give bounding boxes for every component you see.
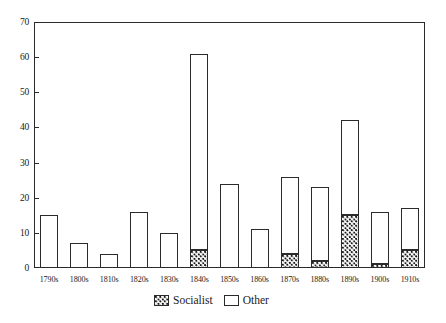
x-axis-tick-label: 1820s — [124, 274, 154, 285]
bar-segment-other — [130, 212, 148, 268]
bar-segment-other — [190, 54, 208, 251]
bar-segment-socialist — [401, 250, 419, 268]
x-axis-tick-label: 1890s — [335, 274, 365, 285]
bar-1790s — [40, 215, 58, 268]
socialist-swatch-icon — [154, 295, 169, 306]
legend-label-socialist: Socialist — [173, 294, 213, 307]
legend-label-other: Other — [243, 294, 269, 307]
bar-segment-other — [160, 233, 178, 268]
y-axis-tick-label: 70 — [0, 16, 34, 28]
x-axis-tick-label: 1910s — [395, 274, 425, 285]
bar-1840s — [190, 54, 208, 268]
bar-segment-socialist — [281, 254, 299, 268]
bar-segment-socialist — [190, 250, 208, 268]
bar-chart: 010203040506070 1790s1800s1810s1820s1830… — [0, 0, 446, 323]
x-axis-tick-label: 1830s — [154, 274, 184, 285]
other-swatch-icon — [224, 295, 239, 306]
x-axis-tick-label: 1900s — [365, 274, 395, 285]
y-axis-tick-label: 50 — [0, 86, 34, 98]
bar-segment-socialist — [341, 215, 359, 268]
y-axis-tick-mark — [34, 57, 39, 58]
y-axis-tick-mark — [34, 92, 39, 93]
bar-1850s — [220, 184, 238, 268]
bar-segment-socialist — [311, 261, 329, 268]
x-axis-tick-label: 1800s — [64, 274, 94, 285]
bar-1800s — [70, 243, 88, 268]
bar-1910s — [401, 208, 419, 268]
bar-segment-other — [281, 177, 299, 254]
y-axis-tick-label: 60 — [0, 51, 34, 63]
bar-1880s — [311, 187, 329, 268]
bar-segment-socialist — [371, 264, 389, 268]
bar-segment-other — [371, 212, 389, 265]
y-axis-tick-mark — [34, 163, 39, 164]
y-axis-tick-mark — [34, 233, 39, 234]
bar-segment-other — [341, 120, 359, 215]
bar-1860s — [251, 229, 269, 268]
y-axis-tick-label: 30 — [0, 157, 34, 169]
bar-1870s — [281, 177, 299, 268]
y-axis-tick-label: 10 — [0, 227, 34, 239]
y-axis-tick-label: 20 — [0, 192, 34, 204]
bar-segment-other — [311, 187, 329, 261]
bar-segment-other — [401, 208, 419, 250]
legend-entry-socialist: Socialist — [154, 294, 213, 307]
bar-segment-other — [40, 215, 58, 268]
bar-1890s — [341, 120, 359, 268]
bar-1830s — [160, 233, 178, 268]
bar-segment-other — [251, 229, 269, 268]
x-axis-tick-label: 1790s — [34, 274, 64, 285]
bar-1820s — [130, 212, 148, 268]
x-axis-tick-label: 1870s — [275, 274, 305, 285]
legend-entry-other: Other — [224, 294, 269, 307]
x-axis-tick-label: 1810s — [94, 274, 124, 285]
bar-segment-other — [220, 184, 238, 268]
y-axis-tick-label: 40 — [0, 121, 34, 133]
x-axis-tick-label: 1840s — [184, 274, 214, 285]
x-axis-tick-label: 1880s — [305, 274, 335, 285]
x-axis-tick-label: 1860s — [245, 274, 275, 285]
x-axis-tick-label: 1850s — [214, 274, 244, 285]
bar-1900s — [371, 212, 389, 268]
bar-1810s — [100, 254, 118, 268]
bar-segment-other — [70, 243, 88, 268]
y-axis-tick-mark — [34, 198, 39, 199]
y-axis-tick-label: 0 — [0, 262, 34, 274]
bar-segment-other — [100, 254, 118, 268]
y-axis-tick-mark — [34, 127, 39, 128]
chart-legend: Socialist Other — [154, 294, 269, 307]
